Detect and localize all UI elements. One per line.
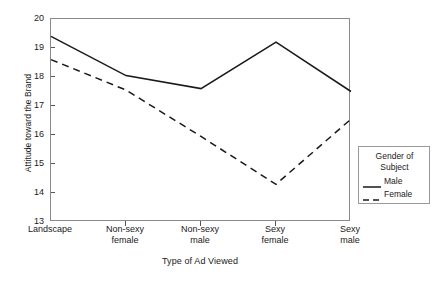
x-tick-mark <box>275 221 276 226</box>
y-tick-label: 19 <box>18 43 44 52</box>
legend-key-dashed-icon <box>363 190 381 198</box>
y-tick-label: 15 <box>18 159 44 168</box>
y-axis-tick-labels: 1314151617181920 <box>14 18 44 221</box>
series-lines <box>51 19 351 222</box>
y-tick-label: 17 <box>18 101 44 110</box>
legend-title-line-2: Subject <box>363 162 426 173</box>
y-tick-label: 20 <box>18 14 44 23</box>
legend-key-solid-icon <box>363 177 381 185</box>
x-tick-mark <box>125 221 126 226</box>
chart-figure: Attitude toward the Brand 13141516171819… <box>0 0 435 281</box>
x-tick-label: Non-sexyfemale <box>82 224 168 246</box>
legend-items: MaleFemale <box>363 176 426 199</box>
y-tick-label: 14 <box>18 188 44 197</box>
series-line-female <box>51 60 351 185</box>
x-tick-label: Non-sexymale <box>157 224 243 246</box>
legend: Gender of Subject MaleFemale <box>358 146 430 204</box>
x-tick-mark <box>200 221 201 226</box>
legend-title-line-1: Gender of <box>363 151 426 162</box>
legend-item-female: Female <box>363 189 426 199</box>
legend-label: Male <box>384 176 402 186</box>
x-axis-tick-labels: LandscapeNon-sexyfemaleNon-sexymaleSexyf… <box>0 224 435 256</box>
legend-item-male: Male <box>363 176 426 186</box>
x-axis-title: Type of Ad Viewed <box>50 256 350 266</box>
plot-area <box>50 18 350 221</box>
legend-label: Female <box>384 189 412 199</box>
y-tick-label: 18 <box>18 72 44 81</box>
x-tick-label: Sexyfemale <box>232 224 318 246</box>
series-line-male <box>51 36 351 91</box>
y-tick-label: 16 <box>18 130 44 139</box>
x-tick-label: Landscape <box>7 224 93 235</box>
x-tick-label: Sexymale <box>307 224 393 246</box>
